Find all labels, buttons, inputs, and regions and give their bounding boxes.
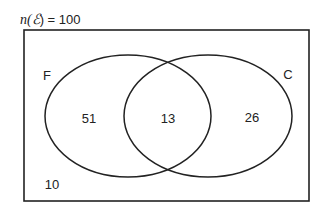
set-f-label: F (43, 68, 51, 83)
set-c-ellipse (124, 55, 292, 177)
intersection-count: 13 (161, 111, 175, 126)
universe-total: 100 (59, 12, 81, 27)
universe-title: n(ℰ) = 100 (20, 12, 81, 28)
venn-diagram: n(ℰ) = 100 F C 51 13 26 10 (0, 0, 323, 214)
c-only-count: 26 (245, 110, 259, 125)
set-c-label: C (283, 67, 292, 82)
universe-equals: ) = (40, 12, 59, 27)
outside-count: 10 (45, 177, 59, 192)
set-f-ellipse (45, 55, 211, 177)
f-only-count: 51 (82, 111, 96, 126)
